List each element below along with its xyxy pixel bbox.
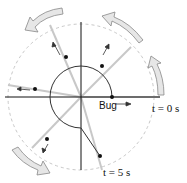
rotation-arrow-top-right	[102, 12, 143, 43]
t5-label: t = 5 s	[103, 166, 130, 178]
t0-label: t = 0 s	[152, 102, 179, 114]
rotation-arrow-right	[148, 56, 164, 95]
bug-label: Bug	[99, 100, 117, 111]
rotation-arrows	[12, 8, 164, 175]
turntable-diagram	[0, 0, 187, 183]
